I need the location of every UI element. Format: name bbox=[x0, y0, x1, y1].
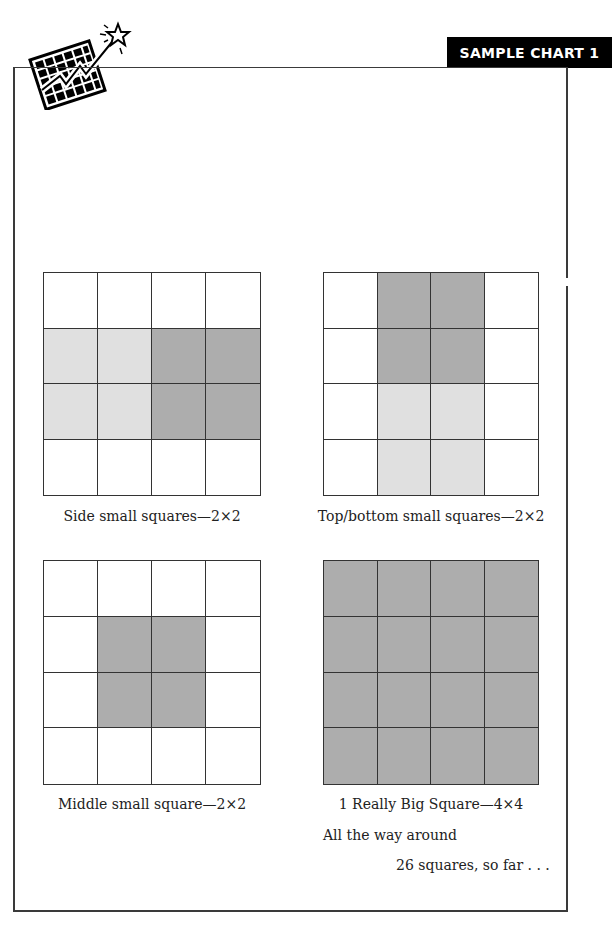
grid-cell bbox=[378, 440, 432, 496]
grid-cell bbox=[98, 329, 152, 385]
grid-cell bbox=[98, 728, 152, 784]
grid-cell bbox=[431, 728, 485, 784]
grid-cell bbox=[378, 673, 432, 729]
grid-cell bbox=[324, 273, 378, 329]
grid-cell bbox=[206, 384, 260, 440]
grid-cell bbox=[206, 673, 260, 729]
grid-cell bbox=[485, 384, 539, 440]
grid-cell bbox=[206, 329, 260, 385]
note-square-count: 26 squares, so far . . . bbox=[396, 857, 550, 873]
grid-cell bbox=[206, 728, 260, 784]
caption-top-bottom-small-squares: Top/bottom small squares—2×2 bbox=[310, 508, 552, 524]
grid-cell bbox=[44, 728, 98, 784]
grid-cell bbox=[324, 384, 378, 440]
grid-cell bbox=[485, 329, 539, 385]
grid-cell bbox=[44, 440, 98, 496]
grid-cell bbox=[324, 673, 378, 729]
grid-cell bbox=[152, 384, 206, 440]
grid-cell bbox=[485, 273, 539, 329]
grid-cell bbox=[44, 561, 98, 617]
grid-cell bbox=[324, 728, 378, 784]
grid-side-small-squares bbox=[43, 272, 261, 496]
grid-cell bbox=[44, 384, 98, 440]
caption-middle-small-square: Middle small square—2×2 bbox=[43, 796, 261, 812]
grid-cell bbox=[485, 440, 539, 496]
grid-cell bbox=[206, 617, 260, 673]
grid-cell bbox=[431, 440, 485, 496]
grid-cell bbox=[152, 440, 206, 496]
grid-cell bbox=[431, 561, 485, 617]
grid-cell bbox=[98, 673, 152, 729]
grid-cell bbox=[324, 561, 378, 617]
grid-cell bbox=[324, 329, 378, 385]
grid-cell bbox=[378, 273, 432, 329]
grid-top-bottom-small-squares bbox=[323, 272, 539, 496]
grid-cell bbox=[324, 440, 378, 496]
grid-cell bbox=[431, 273, 485, 329]
grid-cell bbox=[152, 673, 206, 729]
grid-cell bbox=[44, 617, 98, 673]
grid-middle-small-square bbox=[43, 560, 261, 785]
chart-title-badge: SAMPLE CHART 1 bbox=[447, 37, 612, 68]
grid-really-big-square bbox=[323, 560, 539, 785]
grid-cell bbox=[431, 384, 485, 440]
grid-cell bbox=[152, 329, 206, 385]
chart-title: SAMPLE CHART 1 bbox=[460, 45, 600, 61]
grid-cell bbox=[98, 440, 152, 496]
grid-cell bbox=[206, 561, 260, 617]
grid-cell bbox=[378, 561, 432, 617]
grid-cell bbox=[98, 561, 152, 617]
grid-cell bbox=[378, 384, 432, 440]
grid-cell bbox=[44, 673, 98, 729]
grid-cell bbox=[485, 617, 539, 673]
grid-cell bbox=[152, 561, 206, 617]
grid-cell bbox=[485, 673, 539, 729]
frame-gap bbox=[566, 278, 570, 286]
grid-cell bbox=[44, 329, 98, 385]
grid-cell bbox=[431, 617, 485, 673]
caption-side-small-squares: Side small squares—2×2 bbox=[43, 508, 261, 524]
grid-cell bbox=[485, 561, 539, 617]
grid-cell bbox=[98, 273, 152, 329]
grid-cell bbox=[378, 617, 432, 673]
grid-cell bbox=[431, 673, 485, 729]
grid-cell bbox=[378, 329, 432, 385]
grid-cell bbox=[431, 329, 485, 385]
grid-cell bbox=[324, 617, 378, 673]
grid-cell bbox=[44, 273, 98, 329]
grid-cell bbox=[152, 617, 206, 673]
grid-cell bbox=[152, 728, 206, 784]
caption-really-big-square: 1 Really Big Square—4×4 bbox=[323, 796, 539, 812]
grid-cell bbox=[206, 440, 260, 496]
grid-cell bbox=[378, 728, 432, 784]
note-all-the-way-around: All the way around bbox=[323, 827, 457, 843]
grid-cell bbox=[206, 273, 260, 329]
grid-cell bbox=[485, 728, 539, 784]
grid-cell bbox=[152, 273, 206, 329]
grid-cell bbox=[98, 617, 152, 673]
grid-cell bbox=[98, 384, 152, 440]
